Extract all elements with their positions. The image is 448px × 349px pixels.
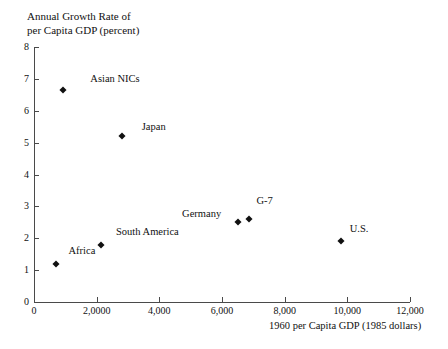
data-point-marker <box>52 260 59 267</box>
y-tick-label: 2 <box>24 233 29 243</box>
y-tick-mark <box>35 143 39 144</box>
x-tick-mark <box>410 297 411 302</box>
x-tick-mark <box>222 297 223 302</box>
data-point-label: Africa <box>69 244 96 255</box>
scatter-chart-figure: Annual Growth Rate of per Capita GDP (pe… <box>0 0 448 349</box>
data-point-marker <box>234 219 241 226</box>
y-tick-mark <box>35 79 39 80</box>
data-point-label: G-7 <box>256 195 272 206</box>
x-axis-title: 1960 per Capita GDP (1985 dollars) <box>269 320 421 331</box>
data-point-marker <box>338 237 345 244</box>
data-point-marker <box>245 216 252 223</box>
y-tick-label: 7 <box>24 74 29 84</box>
y-tick-mark <box>35 47 39 48</box>
data-point-label: Japan <box>142 121 166 132</box>
x-tick-label: 6,000 <box>211 305 234 316</box>
data-point-label: U.S. <box>350 222 369 233</box>
data-point-marker <box>118 133 125 140</box>
data-point-marker <box>59 86 66 93</box>
data-point-label: South America <box>116 225 179 236</box>
x-tick-label: 0 <box>32 305 37 316</box>
y-tick-mark <box>35 206 39 207</box>
y-tick-mark <box>35 270 39 271</box>
plot-area: 012345678 02,00004,0006,0008,00010,00012… <box>34 47 410 302</box>
y-tick-label: 5 <box>24 138 29 148</box>
data-point-label: Germany <box>182 208 221 219</box>
y-tick-label: 3 <box>24 201 29 211</box>
x-tick-mark <box>347 297 348 302</box>
x-tick-mark <box>159 297 160 302</box>
data-point-label: Asian NICs <box>90 73 139 84</box>
x-tick-mark <box>97 297 98 302</box>
x-axis-line <box>34 302 410 303</box>
y-tick-label: 0 <box>24 297 29 307</box>
y-tick-label: 6 <box>24 106 29 116</box>
y-tick-mark <box>35 302 39 303</box>
x-tick-mark <box>285 297 286 302</box>
y-tick-label: 4 <box>24 170 29 180</box>
y-tick-mark <box>35 238 39 239</box>
x-tick-label: 8,000 <box>273 305 296 316</box>
y-tick-mark <box>35 111 39 112</box>
x-tick-label: 10,000 <box>334 305 362 316</box>
y-axis-title: Annual Growth Rate of per Capita GDP (pe… <box>27 10 139 37</box>
y-tick-mark <box>35 175 39 176</box>
data-point-marker <box>98 241 105 248</box>
y-tick-label: 1 <box>24 265 29 275</box>
y-tick-label: 8 <box>24 42 29 52</box>
x-tick-label: 12,000 <box>396 305 424 316</box>
x-tick-label: 4,000 <box>148 305 171 316</box>
x-tick-label: 2,0000 <box>83 305 111 316</box>
